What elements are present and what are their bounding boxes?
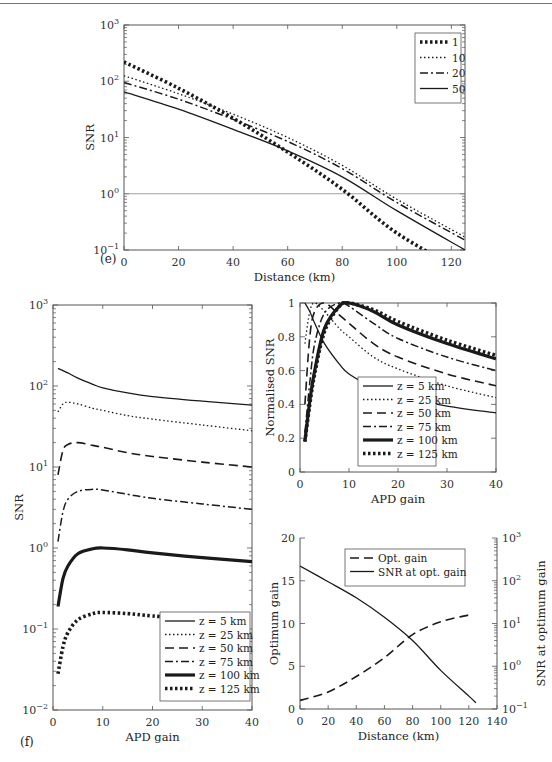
legend-entry: 20 bbox=[452, 67, 465, 79]
tick-label: 80 bbox=[335, 256, 349, 269]
tick-label: 20 bbox=[172, 256, 186, 269]
figure-canvas: 02040608010012010−1100101102103Distance … bbox=[0, 0, 552, 762]
tick-label: 0 bbox=[288, 703, 295, 716]
tick-label: 103 bbox=[502, 530, 521, 545]
tick-label: 40 bbox=[349, 715, 363, 728]
tick-label: 10−1 bbox=[502, 701, 528, 716]
legend: Opt. gainSNR at opt. gain bbox=[345, 549, 467, 586]
tick-label: 40 bbox=[245, 716, 259, 729]
legend: z = 5 kmz = 25 kmz = 50 kmz = 75 kmz = 1… bbox=[358, 377, 458, 466]
tick-label: 100 bbox=[386, 256, 407, 269]
tick-label: 103 bbox=[29, 297, 48, 312]
legend-entry: 50 bbox=[452, 83, 465, 95]
legend-entry: z = 75 km bbox=[199, 656, 253, 668]
tick-label: 20 bbox=[281, 532, 295, 545]
tick-label: 10 bbox=[281, 618, 295, 631]
tick-label: 5 bbox=[288, 660, 295, 673]
tick-label: 30 bbox=[440, 478, 454, 491]
y-axis-label-right: SNR at optimum gain bbox=[534, 560, 548, 687]
legend-entry: z = 50 km bbox=[199, 642, 253, 654]
tick-label: 60 bbox=[377, 715, 391, 728]
series-line bbox=[58, 368, 252, 405]
x-axis-label: APD gain bbox=[370, 492, 426, 506]
tick-label: 30 bbox=[195, 716, 209, 729]
tick-label: 10 bbox=[96, 716, 110, 729]
tick-label: 120 bbox=[441, 256, 462, 269]
series-line bbox=[58, 548, 252, 607]
tick-label: 103 bbox=[100, 17, 119, 32]
x-axis-label: Distance (km) bbox=[358, 729, 439, 743]
x-axis-label: APD gain bbox=[124, 730, 180, 744]
x-axis-label: Distance (km) bbox=[254, 270, 335, 284]
legend-entry: 10 bbox=[452, 52, 465, 64]
tick-label: 1 bbox=[288, 297, 295, 310]
tick-label: 101 bbox=[502, 616, 521, 631]
series-line bbox=[58, 489, 252, 541]
plot-frame bbox=[124, 25, 465, 250]
tick-label: 40 bbox=[489, 478, 503, 491]
tick-label: 0.2 bbox=[278, 432, 296, 445]
tick-label: 140 bbox=[487, 715, 508, 728]
legend-entry: z = 25 km bbox=[199, 629, 253, 641]
tick-label: 0.4 bbox=[278, 398, 296, 411]
tick-label: 0 bbox=[297, 478, 304, 491]
tick-label: 0 bbox=[121, 256, 128, 269]
legend-entry: z = 5 km bbox=[199, 615, 246, 627]
series-line bbox=[58, 402, 252, 431]
y-axis-label: Optimum gain bbox=[267, 581, 281, 665]
tick-label: 100 bbox=[430, 715, 451, 728]
legend-entry: z = 100 km bbox=[397, 434, 458, 446]
tick-label: 120 bbox=[458, 715, 479, 728]
tick-label: 100 bbox=[502, 658, 521, 673]
series-line bbox=[300, 615, 469, 701]
legend: 1102050 bbox=[415, 33, 465, 103]
tick-label: 101 bbox=[29, 459, 48, 474]
chart-f-bottom-right: 0204060801001201400510152010−11001011021… bbox=[267, 530, 548, 743]
legend-entry: z = 25 km bbox=[397, 394, 451, 406]
tick-label: 40 bbox=[226, 256, 240, 269]
tick-label: 102 bbox=[29, 378, 48, 393]
tick-label: 15 bbox=[281, 575, 295, 588]
legend-entry: z = 5 km bbox=[397, 380, 444, 392]
series-line bbox=[124, 92, 465, 250]
legend: z = 5 kmz = 25 kmz = 50 kmz = 75 kmz = 1… bbox=[160, 612, 260, 701]
tick-label: 80 bbox=[406, 715, 420, 728]
tick-label: 0.8 bbox=[278, 331, 296, 344]
panel-label-f: (f) bbox=[20, 735, 34, 749]
y-axis-label: SNR bbox=[83, 124, 97, 151]
tick-label: 10−1 bbox=[22, 621, 48, 636]
tick-label: 102 bbox=[100, 73, 119, 88]
chart-f-left: 01020304010−210−1100101102103APD gainSNR… bbox=[12, 297, 260, 744]
tick-label: 0 bbox=[288, 466, 295, 479]
chart-e: 02040608010012010−1100101102103Distance … bbox=[83, 17, 465, 284]
tick-label: 101 bbox=[100, 130, 119, 145]
legend-entry: Opt. gain bbox=[378, 552, 428, 564]
panel-label-e: (e) bbox=[100, 252, 116, 266]
tick-label: 0 bbox=[297, 715, 304, 728]
legend-entry: SNR at opt. gain bbox=[378, 566, 467, 578]
tick-label: 102 bbox=[502, 573, 521, 588]
tick-label: 20 bbox=[391, 478, 405, 491]
legend-entry: z = 75 km bbox=[397, 421, 451, 433]
tick-label: 10−2 bbox=[22, 702, 48, 717]
tick-label: 20 bbox=[321, 715, 335, 728]
legend-entry: z = 100 km bbox=[199, 669, 260, 681]
tick-label: 10 bbox=[342, 478, 356, 491]
tick-label: 100 bbox=[29, 540, 48, 555]
series-line bbox=[124, 62, 465, 272]
legend-entry: 1 bbox=[452, 36, 459, 48]
tick-label: 0.6 bbox=[278, 365, 296, 378]
tick-label: 60 bbox=[281, 256, 295, 269]
series-line bbox=[58, 443, 252, 475]
tick-label: 100 bbox=[100, 186, 119, 201]
legend-entry: z = 125 km bbox=[397, 448, 458, 460]
legend-entry: z = 50 km bbox=[397, 407, 451, 419]
tick-label: 0 bbox=[50, 716, 57, 729]
tick-label: 20 bbox=[146, 716, 160, 729]
series-line bbox=[300, 566, 476, 703]
chart-f-top-right: 01020304000.20.40.60.81APD gainNormalise… bbox=[263, 297, 503, 506]
y-axis-label: Normalised SNR bbox=[263, 338, 277, 436]
legend-entry: z = 125 km bbox=[199, 683, 260, 695]
series-line bbox=[124, 83, 465, 241]
y-axis-label: SNR bbox=[12, 494, 26, 521]
